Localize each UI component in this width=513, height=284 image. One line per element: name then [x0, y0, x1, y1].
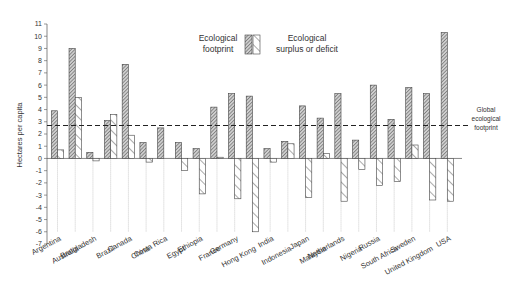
y-tick-label: -5 — [36, 216, 42, 223]
category-label: Japan — [288, 234, 310, 252]
footprint-bar — [51, 111, 57, 159]
y-tick-label: 5 — [38, 94, 42, 101]
y-tick-label: 11 — [35, 20, 42, 27]
footprint-bar — [87, 152, 93, 158]
y-tick-label: 7 — [38, 69, 42, 76]
legend-footprint-swatch — [245, 35, 252, 54]
footprint-bar — [441, 33, 447, 159]
footprint-bar — [264, 149, 270, 159]
surplus-deficit-bar — [217, 157, 223, 158]
legend-surplus-swatch — [253, 35, 260, 54]
y-tick-label: 10 — [34, 33, 42, 40]
surplus-deficit-bar — [288, 144, 294, 159]
surplus-deficit-bar — [93, 158, 99, 160]
footprint-bar — [69, 48, 75, 158]
surplus-deficit-bar — [412, 145, 418, 158]
legend-footprint-label-1: Ecological — [199, 33, 238, 43]
surplus-deficit-bar — [270, 158, 276, 162]
category-label: Costa Rica — [132, 233, 169, 259]
legend-footprint-label-2: footprint — [203, 44, 234, 54]
footprint-bar — [370, 85, 376, 158]
ecological-footprint-chart: 11109876543210-1-2-3-4-5-6-7 Hectares pe… — [0, 0, 513, 284]
footprint-bar — [406, 88, 412, 159]
surplus-deficit-bar — [394, 158, 400, 181]
y-tick-label: 2 — [38, 130, 42, 137]
surplus-deficit-bar — [323, 154, 329, 159]
footprint-bar — [140, 143, 146, 159]
surplus-deficit-bar — [235, 158, 241, 198]
y-tick-label: -4 — [36, 204, 42, 211]
y-tick-label: -2 — [36, 179, 42, 186]
category-label: Canada — [106, 233, 134, 254]
y-axis-title: Hectares per capita — [15, 102, 24, 168]
footprint-bar — [175, 143, 181, 159]
surplus-deficit-bar — [128, 135, 134, 158]
y-axis: 11109876543210-1-2-3-4-5-6-7 — [34, 20, 47, 247]
surplus-deficit-bar — [146, 158, 152, 162]
y-tick-label: 8 — [38, 57, 42, 64]
footprint-bar — [317, 118, 323, 158]
category-label: USA — [434, 234, 452, 249]
category-label: Sweden — [389, 234, 417, 255]
legend-surplus-label-1: Ecological — [288, 33, 327, 43]
surplus-deficit-bar — [58, 150, 64, 159]
y-tick-label: -3 — [36, 192, 42, 199]
surplus-deficit-bar — [252, 158, 258, 231]
surplus-deficit-bar — [447, 158, 453, 201]
y-tick-label: 4 — [38, 106, 42, 113]
footprint-bar — [122, 64, 128, 158]
category-label: Bangladesh — [59, 234, 98, 261]
annotation-line-1: Global — [477, 106, 496, 113]
category-labels: ArgentinaAustraliaBangladeshBrazilCanada… — [30, 233, 452, 276]
y-tick-label: 0 — [38, 155, 42, 162]
surplus-deficit-bar — [199, 158, 205, 193]
y-tick-label: 6 — [38, 82, 42, 89]
footprint-bar — [335, 94, 341, 159]
y-tick-label: 9 — [38, 45, 42, 52]
y-tick-label: 1 — [38, 143, 42, 150]
legend-surplus-label-2: surplus or deficit — [276, 44, 339, 54]
annotation-line-3: footprint — [474, 124, 498, 132]
surplus-deficit-bar — [75, 97, 81, 158]
category-label: Russia — [357, 233, 382, 252]
y-tick-label: -6 — [36, 228, 42, 235]
footprint-bar — [246, 96, 252, 158]
footprint-bar — [282, 141, 288, 158]
category-label: Ethiopia — [176, 233, 205, 254]
surplus-deficit-bar — [341, 158, 347, 201]
footprint-bar — [299, 106, 305, 159]
footprint-bar — [211, 107, 217, 158]
annotation-line-2: ecological — [472, 115, 501, 123]
surplus-deficit-bar — [430, 158, 436, 200]
surplus-deficit-bar — [359, 158, 365, 169]
surplus-deficit-bar — [306, 158, 312, 197]
y-tick-label: 3 — [38, 118, 42, 125]
bars — [47, 33, 462, 232]
footprint-bar — [158, 128, 164, 159]
footprint-bar — [193, 149, 199, 159]
surplus-deficit-bar — [182, 158, 188, 170]
footprint-bar — [353, 140, 359, 158]
footprint-bar — [229, 94, 235, 159]
category-label: India — [256, 233, 275, 249]
footprint-bar — [104, 121, 110, 159]
footprint-bar — [423, 94, 429, 159]
surplus-deficit-bar — [111, 114, 117, 158]
legend: Ecological footprint Ecological surplus … — [199, 33, 339, 54]
y-tick-label: -1 — [36, 167, 42, 174]
surplus-deficit-bar — [376, 158, 382, 185]
global-footprint-annotation: Global ecological footprint — [472, 106, 501, 132]
